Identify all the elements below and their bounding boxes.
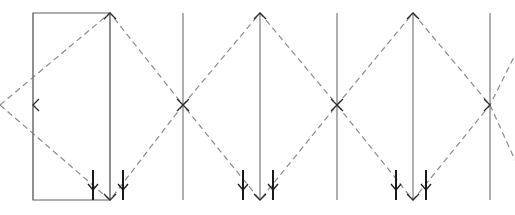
arrowhead-layer xyxy=(33,13,490,200)
dashed-lattice-layer xyxy=(0,13,515,200)
left-panel-rectangle xyxy=(33,13,110,200)
solid-structure-layer xyxy=(33,13,490,200)
diagram-svg xyxy=(0,0,515,215)
load-tick-2 xyxy=(118,170,128,200)
dashed-zigzag-upper xyxy=(0,13,515,160)
load-tick-1 xyxy=(88,170,98,200)
load-tick-4 xyxy=(268,170,278,200)
load-tick-5 xyxy=(391,170,401,200)
arrowhead-left-mid xyxy=(33,99,39,111)
load-tick-6 xyxy=(421,170,431,200)
dashed-zigzag-lower xyxy=(0,55,515,200)
diagram-canvas xyxy=(0,0,515,215)
